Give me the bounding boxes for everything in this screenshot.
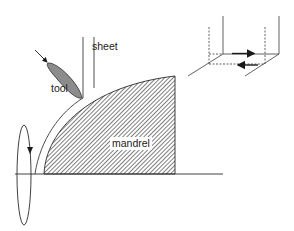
label-tool: tool [51, 83, 68, 94]
spinning-process-diagram [0, 0, 294, 231]
label-sheet: sheet [92, 41, 118, 52]
rotation-ellipse [17, 125, 31, 225]
shear-arrows [232, 54, 258, 66]
rotation-arrow-icon [27, 147, 33, 154]
label-mandrel: mandrel [110, 137, 152, 150]
shear-element-inset [188, 16, 279, 76]
tool-feed-arrow-icon [35, 50, 47, 62]
